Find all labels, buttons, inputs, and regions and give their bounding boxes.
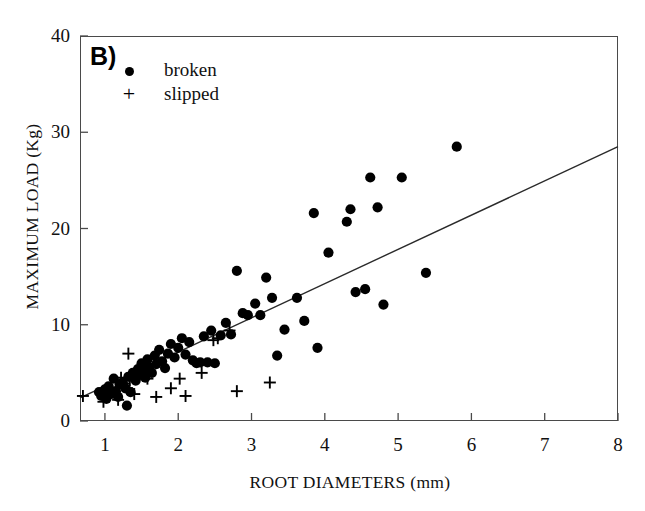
x-tick-label: 7 <box>525 435 565 454</box>
filled-circle-icon <box>112 61 146 79</box>
y-axis-title: MAXIMUM LOAD (Kg) <box>22 124 42 310</box>
legend-label-slipped: slipped <box>146 83 219 105</box>
plus-icon: + <box>112 83 146 105</box>
x-tick-label: 6 <box>451 435 491 454</box>
legend: broken + slipped <box>112 58 219 106</box>
x-tick-label: 3 <box>232 435 272 454</box>
y-axis-title-wrap: MAXIMUM LOAD (Kg) <box>22 67 43 367</box>
x-tick-label: 2 <box>158 435 198 454</box>
legend-item-broken: broken <box>112 58 219 82</box>
legend-item-slipped: + slipped <box>112 82 219 106</box>
x-axis-title: ROOT DIAMETERS (mm) <box>180 472 520 493</box>
y-tick-label: 0 <box>26 411 70 430</box>
x-tick-label: 5 <box>378 435 418 454</box>
legend-label-broken: broken <box>146 59 217 81</box>
x-tick-label: 8 <box>598 435 638 454</box>
y-tick-label: 40 <box>26 26 70 45</box>
scatter-figure: B) broken + slipped 12345678 010203040 R… <box>0 0 645 511</box>
x-tick-label: 1 <box>85 435 125 454</box>
x-tick-label: 4 <box>305 435 345 454</box>
